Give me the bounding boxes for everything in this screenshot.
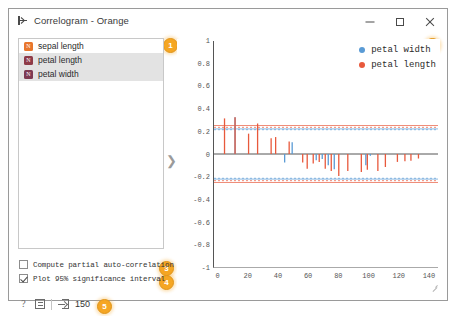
- list-item-label: petal width: [38, 69, 79, 79]
- list-item-label: petal length: [38, 55, 82, 65]
- plot-frame: [213, 41, 438, 268]
- y-axis-tick-label: -0.6: [193, 219, 210, 227]
- partial-autocorrelation-checkbox[interactable]: Compute partial auto-correlation: [19, 260, 174, 269]
- variable-list[interactable]: N sepal length N petal length N petal wi…: [18, 38, 164, 249]
- y-axis-tick-label: -0.4: [193, 196, 210, 204]
- legend-label: petal width: [371, 45, 430, 55]
- checkbox-box: [19, 260, 28, 269]
- chevron-right-icon: ❯: [166, 153, 177, 168]
- correlogram-plot[interactable]: 10.80.60.40.20-0.2-0.4-0.6-0.8-1 0204060…: [177, 39, 440, 294]
- x-axis-tick-label: 120: [392, 272, 405, 280]
- significance-interval-label: Plot 95% significance interval: [33, 275, 165, 283]
- x-axis-ticks: 020406080100120140: [213, 270, 438, 284]
- y-axis-tick-label: 0.6: [197, 82, 210, 90]
- y-axis-tick-label: 0: [206, 151, 210, 159]
- y-axis-tick-label: 0.2: [197, 128, 210, 136]
- x-axis-tick-label: 100: [362, 272, 375, 280]
- status-bar-separator: [51, 299, 52, 310]
- title-bar: Correlogram - Orange: [9, 9, 447, 37]
- y-axis-tick-label: 0.8: [197, 60, 210, 68]
- variable-type-icon: N: [24, 56, 33, 65]
- report-icon[interactable]: [35, 299, 45, 309]
- x-axis-tick-label: 60: [304, 272, 312, 280]
- close-button[interactable]: [415, 9, 445, 35]
- close-icon: [425, 17, 436, 28]
- y-axis-tick-label: -1: [202, 264, 210, 272]
- legend-label: petal length: [371, 60, 436, 70]
- x-axis-tick-label: 20: [244, 272, 252, 280]
- minimize-button[interactable]: [355, 9, 385, 35]
- panel-splitter-handle[interactable]: ❯: [166, 149, 176, 171]
- minimize-icon: [366, 22, 375, 23]
- status-bar: ? 150: [18, 295, 164, 313]
- title-bar-left: Correlogram - Orange: [18, 15, 129, 26]
- input-arrow-icon: [58, 299, 69, 309]
- partial-autocorrelation-label: Compute partial auto-correlation: [33, 261, 174, 269]
- legend-item: petal length: [359, 60, 436, 70]
- list-item[interactable]: N petal length: [19, 53, 163, 67]
- list-item[interactable]: N sepal length: [19, 39, 163, 53]
- legend-dot: [359, 47, 365, 53]
- y-axis-tick-label: -0.8: [193, 241, 210, 249]
- variable-type-icon: N: [24, 42, 33, 51]
- checkbox-box: [19, 274, 28, 283]
- dock-widget-icon: [18, 16, 29, 25]
- x-axis-tick-label: 80: [334, 272, 342, 280]
- x-axis-tick-label: 40: [274, 272, 282, 280]
- list-item-label: sepal length: [38, 41, 84, 51]
- y-axis-ticks: 10.80.60.40.20-0.2-0.4-0.6-0.8-1: [177, 41, 210, 268]
- x-axis-tick-label: 0: [215, 272, 219, 280]
- y-axis-tick-label: -0.2: [193, 173, 210, 181]
- correlogram-window: Correlogram - Orange 1 2 3 4 5 N sepal l…: [8, 8, 448, 301]
- list-item[interactable]: N petal width: [19, 67, 163, 81]
- window-title: Correlogram - Orange: [34, 15, 129, 26]
- legend-dot: [359, 62, 365, 68]
- legend-item: petal width: [359, 45, 436, 55]
- maximize-icon: [396, 18, 404, 26]
- help-icon[interactable]: ?: [18, 298, 29, 310]
- chart-legend: petal width petal length: [359, 45, 436, 75]
- annotation-badge-1: 1: [163, 38, 178, 53]
- variable-type-icon: N: [24, 70, 33, 79]
- input-count-label: 150: [75, 299, 90, 309]
- y-axis-tick-label: 1: [206, 37, 210, 45]
- maximize-button[interactable]: [385, 9, 415, 35]
- resize-grip[interactable]: [430, 284, 438, 292]
- x-axis-tick-label: 140: [423, 272, 436, 280]
- y-axis-tick-label: 0.4: [197, 105, 210, 113]
- significance-interval-checkbox[interactable]: Plot 95% significance interval: [19, 274, 165, 283]
